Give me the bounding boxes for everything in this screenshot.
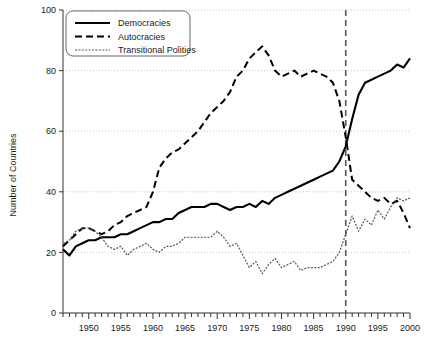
y-axis-ticks: 020406080100 — [41, 5, 63, 318]
x-tick-label-1980: 1980 — [271, 323, 291, 333]
y-tick-label-20: 20 — [46, 248, 56, 258]
polity-trends-line-chart: 020406080100 195019551960196519701975198… — [0, 0, 426, 339]
series-line-autocracies — [63, 46, 410, 246]
x-tick-label-1985: 1985 — [304, 323, 324, 333]
x-tick-label-1995: 1995 — [368, 323, 388, 333]
legend-label-autocracies: Autocracies — [118, 32, 166, 42]
y-tick-label-0: 0 — [51, 308, 56, 318]
y-axis-title: Number of Countries — [8, 133, 18, 217]
y-tick-label-80: 80 — [46, 66, 56, 76]
x-tick-label-1965: 1965 — [175, 323, 195, 333]
x-axis-ticks: 1950195519601965197019751980198519901995… — [63, 313, 420, 333]
chart-legend: DemocraciesAutocraciesTransitional Polit… — [66, 11, 196, 56]
x-tick-label-2000: 2000 — [400, 323, 420, 333]
x-tick-label-1960: 1960 — [143, 323, 163, 333]
series-line-transitional-polities — [63, 198, 410, 274]
y-tick-label-60: 60 — [46, 126, 56, 136]
chart-container: 020406080100 195019551960196519701975198… — [0, 0, 426, 339]
legend-label-transitional-polities: Transitional Polities — [118, 45, 196, 55]
y-tick-label-100: 100 — [41, 5, 56, 15]
x-tick-label-1955: 1955 — [111, 323, 131, 333]
x-tick-label-1975: 1975 — [239, 323, 259, 333]
legend-label-democracies: Democracies — [118, 18, 171, 28]
y-tick-label-40: 40 — [46, 187, 56, 197]
series-line-democracies — [63, 58, 410, 255]
x-tick-label-1950: 1950 — [79, 323, 99, 333]
data-series-layer — [63, 46, 410, 273]
x-tick-label-1990: 1990 — [336, 323, 356, 333]
x-tick-label-1970: 1970 — [207, 323, 227, 333]
